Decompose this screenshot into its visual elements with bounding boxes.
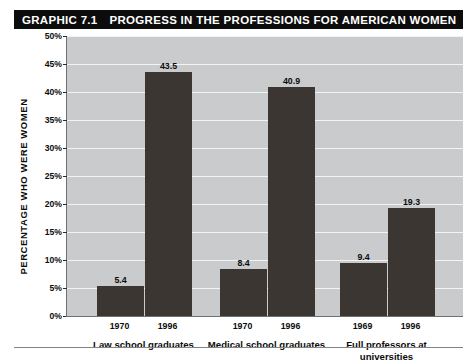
gridline (67, 120, 463, 121)
x-axis-labels: 19701996Law school graduates19701996Medi… (66, 319, 463, 362)
gridline (67, 64, 463, 65)
y-axis-tick-mark (63, 288, 67, 289)
bar (340, 263, 387, 316)
bar-value-label: 8.4 (220, 258, 267, 269)
bar (97, 286, 144, 316)
y-axis-tick-label: 0% (32, 311, 62, 321)
y-axis-tick-label: 50% (32, 31, 62, 41)
x-axis-group-label: Law school graduates (74, 339, 213, 351)
bar (220, 269, 267, 316)
gridline (67, 92, 463, 93)
y-axis-tick-label: 10% (32, 255, 62, 265)
y-axis-tick-label: 5% (32, 283, 62, 293)
y-axis-tick-mark (63, 176, 67, 177)
graphic-title: PROGRESS IN THE PROFESSIONS FOR AMERICAN… (110, 14, 457, 26)
y-axis-tick-label: 15% (32, 227, 62, 237)
x-axis-group-label: Medical school graduates (197, 339, 336, 351)
bar (388, 208, 435, 316)
y-axis-tick-label: 20% (32, 199, 62, 209)
y-axis-tick-label: 25% (32, 171, 62, 181)
bar-chart-figure: PERCENTAGE WHO WERE WOMEN 50%45%40%35%30… (0, 29, 473, 362)
x-axis-year-label: 1970 (219, 321, 266, 331)
y-axis-tick-mark (63, 204, 67, 205)
y-axis-tick-mark (63, 92, 67, 93)
x-axis-year-label: 1996 (144, 321, 191, 331)
bar-value-label: 43.5 (145, 61, 192, 72)
bar-value-label: 19.3 (388, 197, 435, 208)
x-axis-group-label: Full professors atuniversities (317, 339, 456, 362)
gridline (67, 176, 463, 177)
y-axis-title: PERCENTAGE WHO WERE WOMEN (16, 81, 30, 291)
x-axis-line (66, 316, 463, 317)
plot-area: 5.443.58.440.99.419.3 (66, 36, 463, 316)
graphic-number: GRAPHIC 7.1 (22, 14, 98, 26)
gridline (67, 148, 463, 149)
y-axis-tick-mark (63, 148, 67, 149)
bar-value-label: 9.4 (340, 252, 387, 263)
y-axis-tick-label: 45% (32, 59, 62, 69)
x-axis-year-label: 1996 (387, 321, 434, 331)
y-axis-tick-label: 35% (32, 115, 62, 125)
y-axis-title-text: PERCENTAGE WHO WERE WOMEN (18, 98, 29, 274)
bar (268, 87, 315, 316)
x-axis-year-label: 1996 (267, 321, 314, 331)
bottom-divider (14, 347, 463, 348)
bar-value-label: 40.9 (268, 76, 315, 87)
y-axis-tick-mark (63, 36, 67, 37)
bar-value-label: 5.4 (97, 275, 144, 286)
y-axis-tick-mark (63, 64, 67, 65)
x-axis-year-label: 1970 (96, 321, 143, 331)
y-axis-tick-mark (63, 260, 67, 261)
gridline (67, 36, 463, 37)
y-axis-tick-label: 40% (32, 87, 62, 97)
y-axis-tick-labels: 50%45%40%35%30%25%20%15%10%5%0% (32, 36, 62, 316)
graphic-title-banner: GRAPHIC 7.1 PROGRESS IN THE PROFESSIONS … (14, 10, 463, 29)
x-axis-year-label: 1969 (339, 321, 386, 331)
bar (145, 72, 192, 316)
y-axis-tick-mark (63, 232, 67, 233)
y-axis-tick-mark (63, 120, 67, 121)
y-axis-tick-label: 30% (32, 143, 62, 153)
